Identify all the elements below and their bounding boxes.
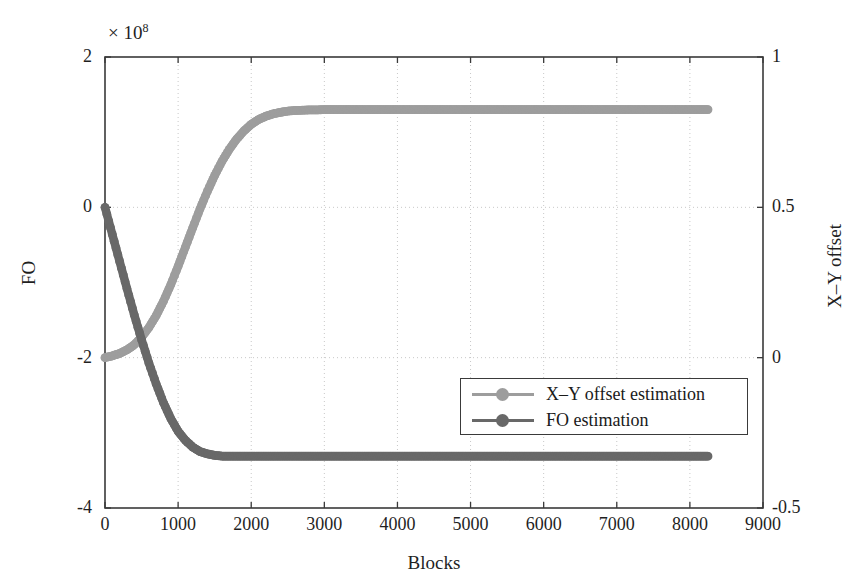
plot-area bbox=[0, 0, 864, 588]
legend-item-1: FO estimation bbox=[461, 407, 747, 433]
chart-figure: × 108 FO X–Y offset Blocks -4-202 -0.500… bbox=[0, 0, 864, 588]
legend-label-0: X–Y offset estimation bbox=[546, 384, 705, 405]
chart-legend: X–Y offset estimation FO estimation bbox=[460, 378, 748, 435]
series-0 bbox=[101, 105, 712, 362]
legend-item-0: X–Y offset estimation bbox=[461, 381, 747, 407]
legend-label-1: FO estimation bbox=[546, 410, 649, 431]
legend-swatch-0 bbox=[472, 386, 534, 402]
legend-swatch-1 bbox=[472, 412, 534, 428]
